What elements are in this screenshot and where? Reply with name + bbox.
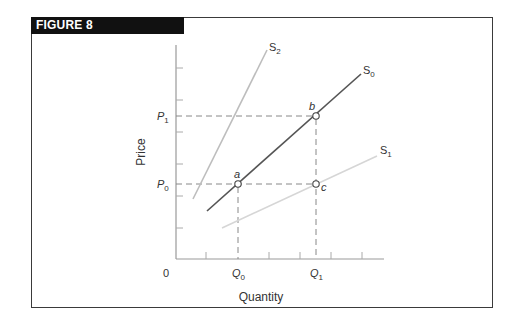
point-b-label: b	[309, 100, 315, 112]
s1-label: S1	[380, 144, 392, 159]
y-axis-title: Price	[134, 138, 148, 166]
q0-tick-label: Q0	[232, 267, 246, 282]
p0-tick-label: P0	[157, 178, 169, 193]
x-axis-ticks	[206, 252, 362, 259]
point-c-marker	[313, 181, 319, 187]
y-axis-ticks	[176, 68, 183, 228]
point-a-marker	[235, 181, 241, 187]
point-b-marker	[313, 113, 319, 119]
s0-label: S0	[363, 64, 375, 79]
x-axis-title: Quantity	[239, 290, 284, 304]
origin-label: 0	[163, 267, 169, 279]
point-c-label: c	[321, 181, 327, 193]
s2-label: S2	[269, 41, 281, 56]
q1-tick-label: Q1	[310, 267, 324, 282]
supply-curve-s0	[207, 74, 361, 211]
supply-shift-chart: a b c S2 S0 S1 P1 P0 Q0 Q1 0 Quantity Pr…	[0, 0, 521, 324]
guide-lines	[176, 116, 316, 259]
supply-curve-s2	[193, 50, 267, 199]
supply-curve-s1	[222, 156, 377, 228]
axes	[176, 45, 384, 259]
point-a-label: a	[234, 168, 240, 180]
p1-tick-label: P1	[157, 110, 169, 125]
